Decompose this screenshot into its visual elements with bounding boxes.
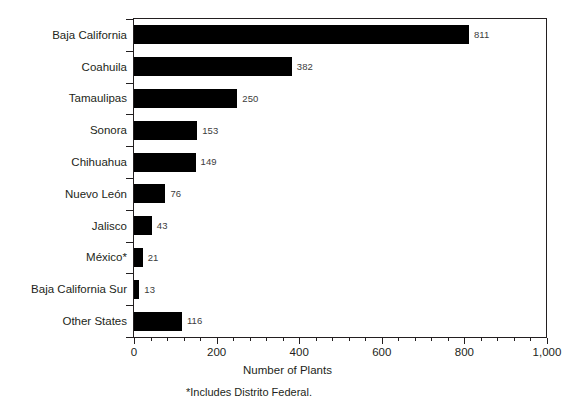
y-axis-label-4: Chihuahua xyxy=(0,146,127,178)
bar-value-6: 43 xyxy=(157,221,168,231)
bar-chart: Baja California Coahuila Tamaulipas Sono… xyxy=(0,0,575,413)
x-axis-tick-minor xyxy=(415,338,416,341)
x-axis-tick-minor xyxy=(316,338,317,341)
x-axis-tick-minor xyxy=(431,338,432,341)
x-axis-tick-label: 0 xyxy=(131,346,137,358)
x-axis-tick-minor xyxy=(151,338,152,341)
bar-value-4: 149 xyxy=(201,157,217,167)
x-axis-tick-minor xyxy=(514,338,515,341)
bar-rows: 811 382 250 153 149 76 43 21 xyxy=(134,19,547,337)
x-axis-tick-minor xyxy=(349,338,350,341)
bar-value-1: 382 xyxy=(297,62,313,72)
y-axis-label-0: Baja California xyxy=(0,19,127,51)
x-axis-tick-major xyxy=(382,338,383,344)
bar-row: 13 xyxy=(134,273,547,305)
bar-row: 153 xyxy=(134,114,547,146)
y-axis-tick xyxy=(126,19,134,20)
bar-value-9: 116 xyxy=(187,316,202,326)
x-axis-tick-minor xyxy=(250,338,251,341)
bar-4 xyxy=(134,153,196,172)
x-axis-tick-label: 800 xyxy=(455,346,474,358)
x-axis-tick-minor xyxy=(167,338,168,341)
chart-footnote: *Includes Distrito Federal. xyxy=(186,386,312,398)
bar-row: 149 xyxy=(134,146,547,178)
y-axis-label-7: México* xyxy=(0,242,127,274)
y-axis-tick xyxy=(126,273,134,274)
y-axis-label-3: Sonora xyxy=(0,114,127,146)
bar-6 xyxy=(134,216,152,235)
bar-0 xyxy=(134,25,469,44)
bar-row: 811 xyxy=(134,19,547,51)
x-axis-tick-major xyxy=(547,338,548,344)
bar-1 xyxy=(134,57,292,76)
bar-value-7: 21 xyxy=(148,253,159,263)
x-axis-tick-major xyxy=(299,338,300,344)
bar-row: 116 xyxy=(134,305,547,337)
y-axis-label-2: Tamaulipas xyxy=(0,83,127,115)
x-axis-tick-minor xyxy=(448,338,449,341)
x-axis-tick-label: 400 xyxy=(290,346,309,358)
y-axis-tick xyxy=(126,337,134,338)
x-axis-title: Number of Plants xyxy=(0,364,575,376)
y-axis-tick xyxy=(126,242,134,243)
bar-9 xyxy=(134,312,182,331)
bar-3 xyxy=(134,121,197,140)
y-axis-tick xyxy=(126,305,134,306)
y-axis-label-5: Nuevo León xyxy=(0,178,127,210)
bar-row: 43 xyxy=(134,210,547,242)
x-axis-tick-major xyxy=(464,338,465,344)
y-axis-label-6: Jalisco xyxy=(0,210,127,242)
bar-value-5: 76 xyxy=(170,189,181,199)
bar-7 xyxy=(134,248,143,267)
x-axis-tick-minor xyxy=(184,338,185,341)
y-axis-category-labels: Baja California Coahuila Tamaulipas Sono… xyxy=(0,19,127,337)
x-axis-tick-label: 600 xyxy=(372,346,391,358)
x-axis-tick-minor xyxy=(365,338,366,341)
bar-row: 76 xyxy=(134,178,547,210)
x-axis-tick-major xyxy=(134,338,135,344)
bar-value-2: 250 xyxy=(242,94,258,104)
x-axis-tick-label: 1,000 xyxy=(533,346,562,358)
bar-8 xyxy=(134,280,139,299)
y-axis-tick xyxy=(126,146,134,147)
bar-row: 382 xyxy=(134,51,547,83)
y-axis-tick xyxy=(126,178,134,179)
y-axis-tick xyxy=(126,83,134,84)
y-axis-label-1: Coahuila xyxy=(0,51,127,83)
y-axis-tick xyxy=(126,51,134,52)
bar-5 xyxy=(134,184,165,203)
y-axis-label-8: Baja California Sur xyxy=(0,273,127,305)
y-axis-tick xyxy=(126,114,134,115)
bar-row: 250 xyxy=(134,83,547,115)
x-axis-tick-major xyxy=(217,338,218,344)
x-axis-tick-minor xyxy=(398,338,399,341)
x-axis-tick-minor xyxy=(200,338,201,341)
x-axis-tick-minor xyxy=(283,338,284,341)
x-axis-tick-minor xyxy=(481,338,482,341)
bar-row: 21 xyxy=(134,242,547,274)
x-axis-tick-label: 200 xyxy=(207,346,226,358)
bar-value-3: 153 xyxy=(202,126,218,136)
x-axis-tick-minor xyxy=(497,338,498,341)
x-axis-tick-minor xyxy=(233,338,234,341)
x-axis-tick-minor xyxy=(530,338,531,341)
y-axis-tick xyxy=(126,210,134,211)
bar-value-8: 13 xyxy=(144,285,155,295)
y-axis-label-9: Other States xyxy=(0,305,127,337)
bar-value-0: 811 xyxy=(474,30,489,40)
bar-2 xyxy=(134,89,237,108)
x-axis-tick-minor xyxy=(266,338,267,341)
x-axis-tick-minor xyxy=(332,338,333,341)
